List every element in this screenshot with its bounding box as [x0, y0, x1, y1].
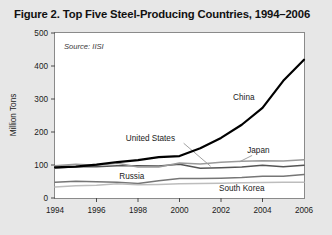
x-axis-tick-labels: 1994199619982000200220042006: [46, 206, 314, 215]
x-tick-label: 2000: [170, 206, 189, 215]
series-label-japan: Japan: [247, 146, 270, 155]
plot-area-background: [55, 33, 305, 199]
chart-canvas: 0100200300400500 19941996199820002002200…: [0, 24, 332, 224]
x-tick-label: 1994: [46, 206, 65, 215]
y-axis-tick-labels: 0100200300400500: [34, 29, 48, 203]
y-tick-label: 300: [34, 95, 48, 104]
series-label-united-states: United States: [126, 134, 175, 143]
series-label-china: China: [233, 93, 255, 102]
y-tick-label: 0: [43, 194, 48, 203]
x-tick-label: 2006: [295, 206, 314, 215]
y-tick-label: 500: [34, 29, 48, 38]
line-chart: 0100200300400500 19941996199820002002200…: [0, 24, 332, 224]
x-tick-label: 1998: [129, 206, 148, 215]
figure-container: Figure 2. Top Five Steel-Producing Count…: [0, 0, 332, 235]
x-tick-label: 2004: [253, 206, 272, 215]
y-tick-label: 100: [34, 161, 48, 170]
x-tick-label: 1996: [87, 206, 106, 215]
page-title: Figure 2. Top Five Steel-Producing Count…: [14, 8, 310, 20]
x-tick-label: 2002: [212, 206, 231, 215]
series-label-south-korea: South Korea: [219, 184, 265, 193]
y-tick-label: 400: [34, 62, 48, 71]
y-tick-label: 200: [34, 128, 48, 137]
source-annotation: Source: IISI: [64, 42, 105, 51]
series-label-russia: Russia: [119, 172, 144, 181]
y-axis-title: Million Tons: [9, 94, 18, 137]
